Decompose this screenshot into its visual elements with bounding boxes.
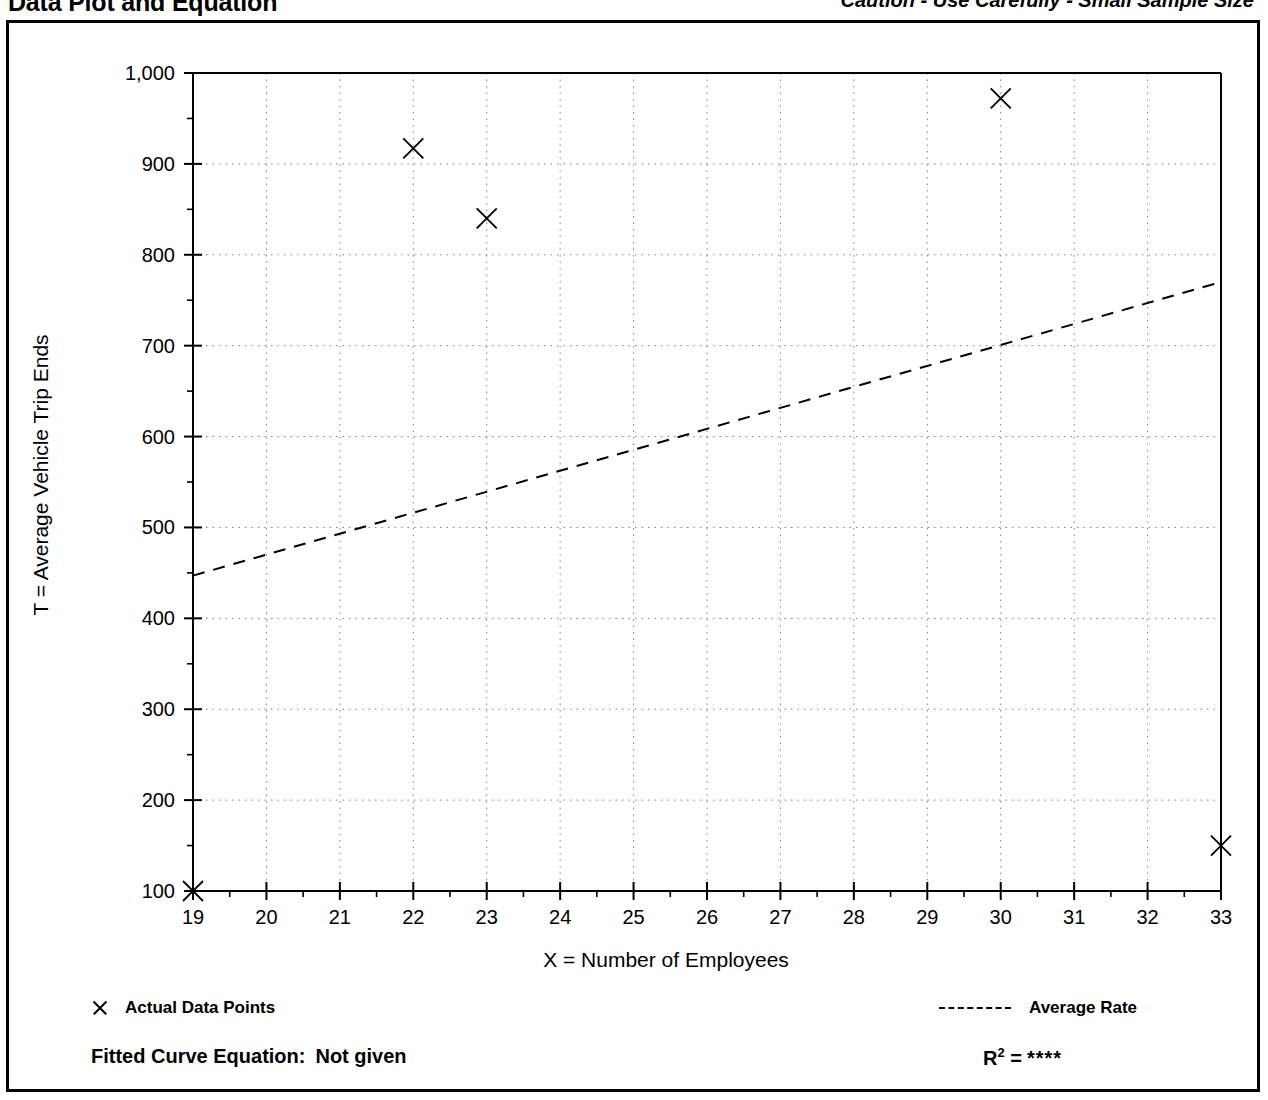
x-tick-label: 23 [457,907,517,927]
x-tick-label: 19 [163,907,223,927]
y-tick-label: 1,000 [85,63,175,83]
y-tick-label: 400 [85,608,175,628]
y-axis-title: T = Average Vehicle Trip Ends [29,275,53,675]
r-squared-readout: R2 =**** [983,1045,1062,1070]
y-tick-label: 600 [85,427,175,447]
x-tick-label: 33 [1191,907,1251,927]
x-tick-label: 30 [971,907,1031,927]
x-tick-label: 27 [750,907,810,927]
y-tick-label: 100 [85,881,175,901]
chart-frame: T = Average Vehicle Trip Ends X = Number… [6,20,1260,1092]
scatter-plot-svg [9,23,1263,953]
caution-note: Caution - Use Carefully - Small Sample S… [841,0,1254,12]
x-tick-label: 26 [677,907,737,927]
equation-value: Not given [315,1045,406,1067]
equation-label: Fitted Curve Equation: [91,1045,305,1067]
x-tick-label: 32 [1118,907,1178,927]
y-tick-label: 200 [85,790,175,810]
r-squared-value: **** [1027,1047,1062,1069]
x-tick-label: 24 [530,907,590,927]
x-tick-label: 22 [383,907,443,927]
legend-label-actual-data-points: Actual Data Points [125,998,275,1018]
legend-actual-data-points: Actual Data Points [91,998,275,1018]
header-strip: Data Plot and Equation Caution - Use Car… [0,0,1268,18]
x-axis-title-text: X = Number of Employees [543,948,789,971]
x-axis-title: X = Number of Employees [9,948,1263,972]
x-tick-label: 31 [1044,907,1104,927]
r-squared-equals: = [1010,1047,1022,1069]
page-title: Data Plot and Equation [8,0,277,17]
x-tick-label: 21 [310,907,370,927]
x-tick-label: 20 [236,907,296,927]
legend-average-rate: Average Rate [939,998,1137,1018]
dashed-line-icon [939,1007,1011,1009]
fitted-curve-equation: Fitted Curve Equation:Not given [91,1045,407,1068]
y-tick-label: 700 [85,336,175,356]
y-tick-label: 300 [85,699,175,719]
x-tick-label: 29 [897,907,957,927]
x-tick-label: 25 [604,907,664,927]
x-marker-icon [91,999,109,1017]
chart-region: T = Average Vehicle Trip Ends X = Number… [9,23,1263,1095]
y-tick-label: 800 [85,245,175,265]
y-tick-label: 500 [85,517,175,537]
x-tick-label: 28 [824,907,884,927]
y-tick-label: 900 [85,154,175,174]
r-squared-exponent: 2 [997,1045,1004,1060]
legend-label-average-rate: Average Rate [1029,998,1137,1018]
r-squared-label: R [983,1047,997,1069]
